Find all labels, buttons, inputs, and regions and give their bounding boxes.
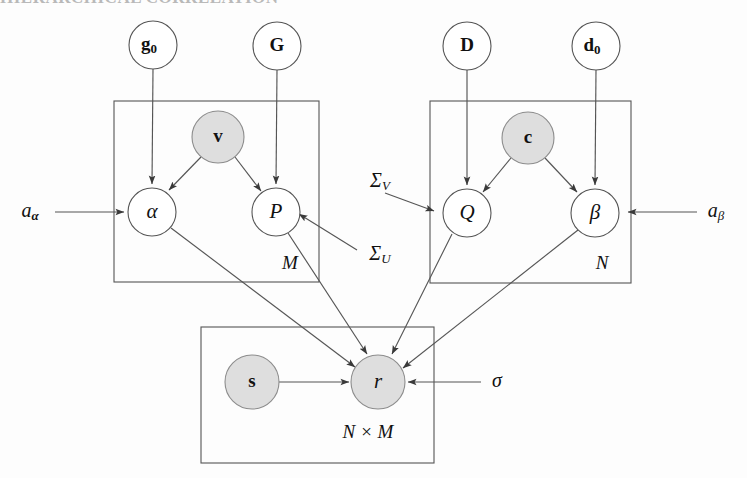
label-a-beta: aβ <box>708 199 725 223</box>
edge-c-Q <box>483 158 511 192</box>
edge-G-P <box>276 70 277 184</box>
edge-v-alpha <box>169 157 201 190</box>
node-c[interactable]: c <box>502 112 554 164</box>
node-r[interactable]: r <box>351 355 405 409</box>
node-D[interactable]: D <box>443 22 491 70</box>
node-s[interactable]: s <box>225 355 279 409</box>
figure-canvas: HIERARCHICAL CORRELATION <box>0 0 747 478</box>
label-sigma-U: ΣU <box>368 242 392 266</box>
node-Q[interactable]: Q <box>443 189 491 237</box>
edge-alpha-r <box>171 228 355 367</box>
label-sigma-V: ΣV <box>369 169 392 193</box>
edge-c-beta <box>545 158 577 192</box>
edge-P-r <box>288 233 367 354</box>
node-group: g0 G D d0 v <box>128 21 620 409</box>
node-P[interactable]: P <box>252 188 300 236</box>
node-v[interactable]: v <box>192 111 244 163</box>
node-g0[interactable]: g0 <box>129 21 177 69</box>
node-D-label: D <box>460 34 474 55</box>
plate-diagram: g0 G D d0 v <box>0 0 747 478</box>
node-v-label: v <box>213 125 223 146</box>
plate-NM-label: N × M <box>342 421 395 442</box>
edge-v-P <box>235 157 261 191</box>
node-d0[interactable]: d0 <box>572 22 620 70</box>
label-sigma: σ <box>492 369 503 391</box>
label-a-alpha: aα <box>21 199 39 223</box>
edge-d0-beta <box>595 70 596 185</box>
node-s-label: s <box>248 370 255 391</box>
edge-beta-r <box>403 230 578 368</box>
node-alpha-label: α <box>146 199 158 223</box>
node-Q-label: Q <box>459 200 474 224</box>
plate-M-label: M <box>281 252 299 273</box>
node-G-label: G <box>270 34 285 55</box>
plate-N-label: N <box>595 252 610 273</box>
node-beta-label: β <box>589 200 601 224</box>
node-c-label: c <box>524 126 532 147</box>
node-beta[interactable]: β <box>571 189 619 237</box>
edge-sigmaU-P <box>299 214 357 250</box>
edge-g0-alpha <box>152 69 153 184</box>
node-r-label: r <box>374 369 383 393</box>
node-P-label: P <box>269 199 283 223</box>
node-G[interactable]: G <box>253 22 301 70</box>
plate-label-group: M N N × M <box>281 252 610 442</box>
edge-sigmaV-Q <box>385 193 434 211</box>
node-alpha[interactable]: α <box>128 188 176 236</box>
